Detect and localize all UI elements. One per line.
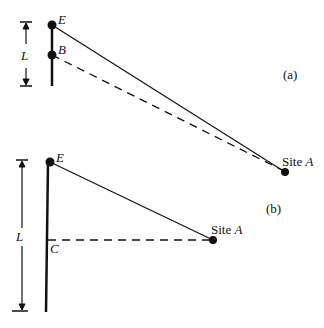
figure-a: L E B (a) Site A [20, 12, 313, 176]
sightline-e-a [52, 25, 285, 172]
label-e-a: E [57, 12, 66, 27]
sightline-e-b [50, 162, 213, 240]
site-label-b: Site A [211, 222, 242, 237]
point-b-a [48, 51, 57, 60]
figure-b: L E C (b) Site A [12, 150, 281, 312]
dimension-label-b: L [15, 229, 23, 244]
point-e-a [48, 21, 57, 30]
label-e-b: E [55, 150, 64, 165]
point-e-b [46, 158, 55, 167]
dimension-label-a: L [20, 48, 28, 63]
label-b-a: B [58, 42, 66, 57]
label-c-b: C [50, 241, 59, 256]
diagram: L E B (a) Site A L [0, 0, 324, 328]
tower-b [46, 163, 48, 312]
site-a-point-b [209, 236, 217, 244]
figure-label-b: (b) [266, 201, 281, 216]
sightline-b-a [52, 55, 282, 170]
site-a-point-a [281, 168, 289, 176]
figure-label-a: (a) [283, 67, 297, 82]
site-label-a: Site A [282, 154, 313, 169]
